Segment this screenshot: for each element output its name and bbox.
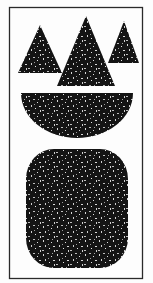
rounded-square-block [26,149,128,268]
artwork-canvas [0,0,153,283]
small-left-triangle [18,25,62,73]
small-right-triangle [108,21,139,63]
artwork-svg [0,0,153,283]
large-center-triangle [57,16,115,86]
half-disc-bowl [21,93,133,138]
